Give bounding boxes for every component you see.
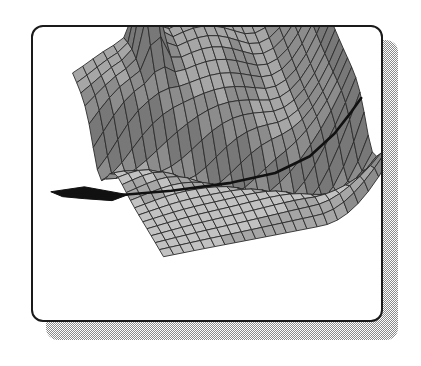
figure-card: [31, 25, 383, 322]
surface-plot: [33, 27, 381, 320]
surface-mesh-svg: [33, 27, 381, 320]
figure-canvas: [0, 0, 421, 366]
mesh-faces: [73, 27, 381, 257]
